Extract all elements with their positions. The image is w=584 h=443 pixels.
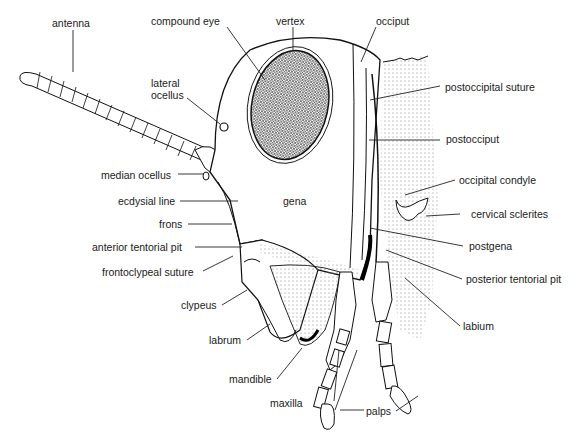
label-posterior-tentorial-pit: posterior tentorial pit bbox=[466, 273, 561, 285]
label-labium: labium bbox=[463, 320, 494, 332]
label-cervical-sclerites: cervical sclerites bbox=[471, 208, 548, 220]
label-anterior-tentorial-pit: anterior tentorial pit bbox=[92, 241, 182, 253]
label-lateral-ocellus-line2: ocellus bbox=[151, 89, 184, 101]
label-occipital-condyle: occipital condyle bbox=[459, 174, 536, 186]
label-mandible: mandible bbox=[229, 373, 272, 385]
label-gena: gena bbox=[283, 195, 306, 207]
label-occiput: occiput bbox=[376, 15, 409, 27]
label-ecdysial-line: ecdysial line bbox=[118, 195, 175, 207]
label-postocciput: postocciput bbox=[446, 133, 499, 145]
insect-head-drawing bbox=[0, 0, 584, 443]
label-frons: frons bbox=[159, 218, 182, 230]
label-palps: palps bbox=[366, 405, 391, 417]
label-median-ocellus: median ocellus bbox=[101, 169, 171, 181]
label-labrum: labrum bbox=[209, 334, 241, 346]
label-postoccipital-suture: postoccipital suture bbox=[445, 81, 535, 93]
label-frontoclypeal-suture: frontoclypeal suture bbox=[102, 266, 194, 278]
label-vertex: vertex bbox=[276, 15, 305, 27]
label-compound-eye: compound eye bbox=[151, 15, 220, 27]
antenna-drawing bbox=[20, 72, 242, 179]
label-antenna: antenna bbox=[52, 17, 90, 29]
label-lateral-ocellus-line1: lateral bbox=[151, 77, 180, 89]
label-clypeus: clypeus bbox=[181, 299, 217, 311]
label-maxilla: maxilla bbox=[270, 397, 303, 409]
label-postgena: postgena bbox=[469, 240, 512, 252]
